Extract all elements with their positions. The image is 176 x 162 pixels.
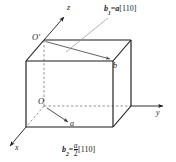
vector-b1-arrow	[46, 42, 111, 60]
x-axis-label: x	[15, 144, 19, 152]
annotation-b2-denominator: 2	[74, 149, 78, 158]
annotation-b2-equals: =	[69, 145, 74, 154]
point-label-b: b	[113, 62, 117, 70]
z-axis-label: z	[67, 4, 70, 12]
annotation-b1-direction: [110]	[119, 4, 136, 13]
annotation-b2-subscript: 2	[66, 151, 69, 157]
z-axis	[44, 17, 64, 40]
annotation-b1: b1=a[110]	[104, 5, 136, 15]
vertex-label-o-prime: O'	[32, 33, 40, 42]
b1-leader-line	[66, 18, 108, 52]
annotation-b2-fraction: a 2	[74, 142, 78, 158]
annotation-b1-subscript: 1	[108, 10, 111, 16]
vector-a-arrow	[47, 108, 68, 122]
cube-hidden-edges	[26, 40, 131, 127]
crystal-unit-cell-figure: z y x O' O b a b1=a[110] b2= a 2 [110]	[0, 0, 176, 162]
vector-label-a: a	[70, 120, 74, 128]
annotation-b2: b2= a 2 [110]	[62, 142, 95, 158]
annotation-b2-direction: [110]	[78, 145, 95, 154]
cube-visible-edges	[26, 40, 131, 127]
vertex-label-o: O	[38, 97, 44, 106]
annotation-b2-numerator: a	[74, 142, 78, 150]
y-axis-label: y	[156, 109, 160, 117]
figure-drawing	[0, 0, 176, 162]
